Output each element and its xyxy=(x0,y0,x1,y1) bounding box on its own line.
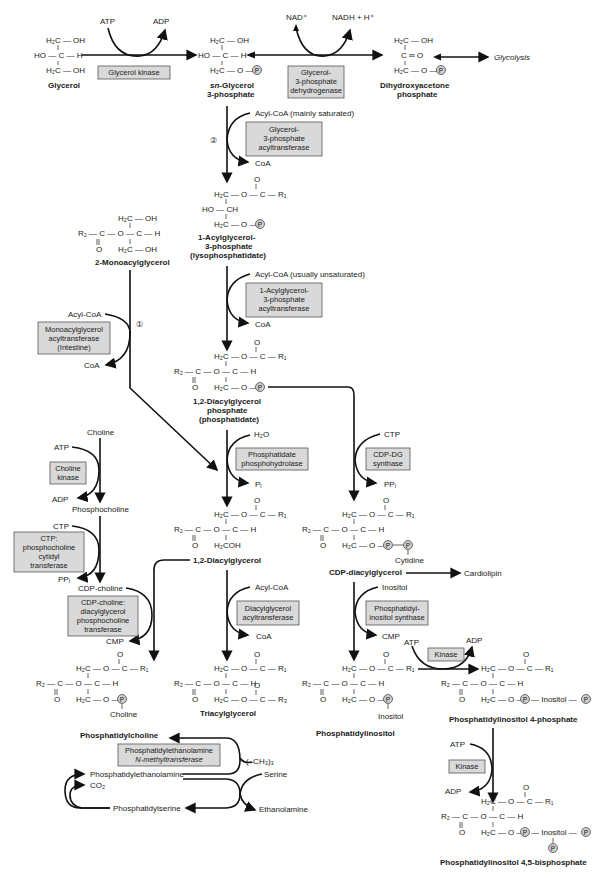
svg-text:diacylglycerol: diacylglycerol xyxy=(80,607,125,616)
svg-text:O: O xyxy=(54,695,60,704)
glycerol-label: Glycerol xyxy=(48,81,80,90)
phosphatidylinositol-structure: O H₂C — O — C — R₁ R₂ — C — O — C — H O … xyxy=(302,650,415,738)
svg-text:O: O xyxy=(117,650,123,659)
svg-text:phosphocholine: phosphocholine xyxy=(77,616,130,625)
svg-text:— Inositol —: — Inositol — xyxy=(531,828,577,837)
svg-text:O: O xyxy=(523,783,529,792)
svg-text:O: O xyxy=(459,828,465,837)
svg-text:O: O xyxy=(254,175,260,184)
svg-text:H₂C — O —: H₂C — O — xyxy=(481,828,525,837)
svg-text:P: P xyxy=(258,221,262,228)
svg-text:Diacylglycerol: Diacylglycerol xyxy=(245,604,292,613)
g3p-structure: H₂C — OH HO — C — H H₂C — O — P sn-Glyce… xyxy=(198,36,262,99)
pip2-structure: O H₂C — O — C — R₁ R₂ — C — O — C — H O … xyxy=(440,783,591,867)
svg-text:O: O xyxy=(192,695,198,704)
svg-text:H₂C — O — C — R₁: H₂C — O — C — R₁ xyxy=(481,664,554,673)
svg-text:3-phosphate: 3-phosphate xyxy=(263,134,305,143)
cdp-choline-label: CDP-choline xyxy=(78,584,123,593)
svg-text:phosphocholine: phosphocholine xyxy=(23,543,76,552)
svg-text:CoA: CoA xyxy=(84,361,100,370)
svg-text:acyltransferase: acyltransferase xyxy=(243,613,294,622)
arrow-atp-adp xyxy=(108,28,165,56)
svg-text:O: O xyxy=(254,338,260,347)
route-2-marker: ② xyxy=(210,136,217,145)
svg-text:CDP-DG: CDP-DG xyxy=(373,450,403,459)
svg-text:PPᵢ: PPᵢ xyxy=(58,575,70,584)
svg-text:(lysophosphatidate): (lysophosphatidate) xyxy=(190,251,266,260)
svg-text:Choline: Choline xyxy=(110,710,138,719)
glycolysis-label: Glycolysis xyxy=(494,53,530,62)
lysophosphatidate-structure: O H₂C — O — C — R₁ HO — CH H₂C — O — P 1… xyxy=(190,175,287,260)
svg-text:Dihydroxyacetone: Dihydroxyacetone xyxy=(380,81,450,90)
svg-text:P: P xyxy=(523,829,527,836)
atp-label: ATP xyxy=(100,17,115,26)
acylcoa-unsaturated-label: Acyl-CoA (usually unsaturated) xyxy=(255,270,365,279)
glycerol-structure: H₂C — OH HO — C — H H₂C — OH Glycerol xyxy=(34,36,85,90)
svg-text:H₂C — O — C — R₃: H₂C — O — C — R₃ xyxy=(214,695,287,704)
svg-text:O: O xyxy=(96,245,102,254)
triacylglycerol-structure: O H₂C — O — C — R₁ R₂ — C — O — C — H O … xyxy=(174,650,287,718)
svg-text:Acyl-CoA: Acyl-CoA xyxy=(68,310,102,319)
arrow-dag-pc xyxy=(154,560,190,660)
ethanolamine-label: Ethanolamine xyxy=(259,805,308,814)
svg-text:H₂C — O —: H₂C — O — xyxy=(342,541,386,550)
svg-text:P: P xyxy=(255,67,259,74)
svg-text:HO — C — H: HO — C — H xyxy=(34,51,83,60)
svg-text:CTP: CTP xyxy=(53,522,69,531)
svg-text:O: O xyxy=(383,496,389,505)
svg-text:Kinase: Kinase xyxy=(456,762,479,771)
svg-text:Phosphatidylinositol 4,5-bisph: Phosphatidylinositol 4,5-bisphosphate xyxy=(440,858,587,867)
svg-text:R₂ — C — O — C — H: R₂ — C — O — C — H xyxy=(174,679,256,688)
svg-text:ATP: ATP xyxy=(404,638,419,647)
svg-text:H₂C — OH: H₂C — OH xyxy=(118,214,157,223)
svg-text:acyltransferase: acyltransferase xyxy=(259,304,310,313)
svg-text:1,2-Diacylglycerol: 1,2-Diacylglycerol xyxy=(193,397,261,406)
svg-text:Glycerol-: Glycerol- xyxy=(301,68,332,77)
svg-text:Pᵢ: Pᵢ xyxy=(255,480,262,489)
svg-text:O: O xyxy=(383,650,389,659)
svg-text:H₂C — O — C — R₁: H₂C — O — C — R₁ xyxy=(214,352,287,361)
svg-text:H₂C — OH: H₂C — OH xyxy=(118,245,157,254)
svg-text:P: P xyxy=(439,67,443,74)
phosphatidylcholine-structure: O H₂C — O — C — R₁ R₂ — C — O — C — H O … xyxy=(36,650,149,719)
svg-text:Glycerol kinase: Glycerol kinase xyxy=(108,68,159,77)
svg-text:Inositol: Inositol xyxy=(378,712,404,721)
svg-text:1-Acylglycerol-: 1-Acylglycerol- xyxy=(259,286,309,295)
svg-text:O: O xyxy=(254,681,260,690)
svg-text:O: O xyxy=(523,650,529,659)
svg-text:Phosphatidate: Phosphatidate xyxy=(248,450,296,459)
diacylglycerol-structure: O H₂C — O — C — R₁ R₂ — C — O — C — H O … xyxy=(174,496,287,565)
svg-text:1-Acylglycerol-: 1-Acylglycerol- xyxy=(198,233,256,242)
serine-label: Serine xyxy=(264,770,288,779)
svg-text:CDP-choline:: CDP-choline: xyxy=(81,598,125,607)
svg-text:R₂ — C — O — C — H: R₂ — C — O — C — H xyxy=(441,679,523,688)
svg-text:P: P xyxy=(258,384,262,391)
svg-text:Cytidine: Cytidine xyxy=(395,556,424,565)
svg-text:transferase: transferase xyxy=(30,561,68,570)
svg-text:P: P xyxy=(584,696,588,703)
svg-text:H₂C — OH: H₂C — OH xyxy=(210,36,249,45)
svg-text:Inositol: Inositol xyxy=(382,583,408,592)
svg-text:PPᵢ: PPᵢ xyxy=(384,480,396,489)
svg-text:transferase: transferase xyxy=(84,625,122,634)
svg-text:P: P xyxy=(406,542,410,549)
svg-text:CoA: CoA xyxy=(256,632,272,641)
phosphatidylserine-label: Phosphatidylserine xyxy=(113,804,181,813)
svg-text:H₂C — O —: H₂C — O — xyxy=(76,695,120,704)
svg-text:3-phosphate: 3-phosphate xyxy=(295,77,337,86)
svg-text:R₂ — C — O — C — H: R₂ — C — O — C — H xyxy=(441,812,523,821)
svg-text:H₂C — O — C — R₁: H₂C — O — C — R₁ xyxy=(76,664,149,673)
svg-text:N-methyltransferase: N-methyltransferase xyxy=(135,755,203,764)
pathway-diagram: H₂C — OH HO — C — H H₂C — OH Glycerol AT… xyxy=(0,0,602,878)
svg-text:O: O xyxy=(320,695,326,704)
svg-text:O: O xyxy=(459,695,465,704)
svg-text:H₂C — O —: H₂C — O — xyxy=(214,383,258,392)
svg-text:H₂C — OH: H₂C — OH xyxy=(46,66,85,75)
arrow-pe-ps xyxy=(183,779,240,808)
svg-text:(phosphatidate): (phosphatidate) xyxy=(199,415,259,424)
acylcoa-saturated-label: Acyl-CoA (mainly saturated) xyxy=(255,109,354,118)
svg-text:Phosphatidylinositol 4-phospha: Phosphatidylinositol 4-phosphate xyxy=(449,715,578,724)
monoacylglycerol-structure: H₂C — OH R₂ — C — O — C — H O H₂C — OH 2… xyxy=(78,214,170,267)
svg-text:CTP: CTP xyxy=(384,430,400,439)
svg-text:acyltransferase: acyltransferase xyxy=(49,334,100,343)
